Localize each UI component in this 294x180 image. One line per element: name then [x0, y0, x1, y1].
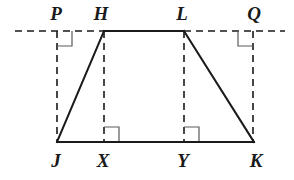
- trapezoid-edges: [57, 31, 254, 142]
- vertex-label-Q: Q: [247, 4, 261, 23]
- vertex-label-H: H: [94, 4, 109, 23]
- segment-LK: [184, 31, 254, 142]
- vertex-label-P: P: [50, 4, 62, 23]
- right-angle-at-Y: [184, 127, 199, 142]
- vertex-label-K: K: [250, 151, 263, 170]
- right-angle-markers: [57, 31, 253, 142]
- vertex-label-X: X: [97, 151, 110, 170]
- vertex-label-Y: Y: [177, 151, 189, 170]
- vertex-label-L: L: [176, 4, 188, 23]
- right-angle-at-X: [104, 127, 119, 142]
- right-angle-at-P: [57, 31, 72, 46]
- right-angle-at-Q: [238, 31, 253, 46]
- vertex-label-J: J: [51, 151, 61, 170]
- segment-JH: [57, 31, 104, 142]
- geometry-figure: P H L Q J X Y K: [0, 0, 294, 180]
